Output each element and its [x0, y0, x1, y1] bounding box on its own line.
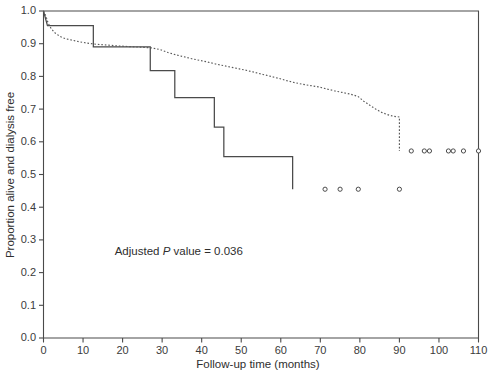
- y-tick-label: 0.1: [21, 299, 36, 311]
- censor-mark: [409, 149, 413, 153]
- y-tick-label: 0.4: [21, 201, 36, 213]
- y-tick-label: 0.3: [21, 233, 36, 245]
- x-tick-label: 40: [196, 344, 208, 356]
- x-tick-label: 80: [354, 344, 366, 356]
- y-tick-label: 0.8: [21, 70, 36, 82]
- x-tick-label: 60: [275, 344, 287, 356]
- y-tick-label: 0.5: [21, 168, 36, 180]
- dotted-step-curve: [44, 11, 400, 151]
- x-axis-ticks: 0102030405060708090100110: [40, 338, 487, 356]
- solid-step-curve: [44, 11, 293, 189]
- survival-plot: 0.00.10.20.30.40.50.60.70.80.91.0 010203…: [0, 0, 500, 381]
- censor-mark: [422, 149, 426, 153]
- x-tick-label: 20: [116, 344, 128, 356]
- x-tick-label: 110: [470, 344, 488, 356]
- y-axis-label: Proportion alive and dialysis free: [4, 92, 16, 258]
- x-axis-label: Follow-up time (months): [196, 358, 320, 370]
- y-tick-label: 0.7: [21, 103, 36, 115]
- censor-mark: [323, 187, 327, 191]
- adjusted-p-value: Adjusted P value = 0.036: [115, 245, 243, 257]
- censor-mark: [397, 187, 401, 191]
- y-tick-label: 1.0: [21, 4, 36, 16]
- censor-mark: [356, 187, 360, 191]
- x-tick-label: 70: [314, 344, 326, 356]
- x-tick-label: 50: [235, 344, 247, 356]
- y-tick-label: 0.0: [21, 331, 36, 343]
- censor-mark: [427, 149, 431, 153]
- x-tick-label: 0: [40, 344, 46, 356]
- y-tick-label: 0.9: [21, 37, 36, 49]
- survival-curves: [44, 11, 400, 189]
- censor-mark: [461, 149, 465, 153]
- censor-mark: [446, 149, 450, 153]
- x-tick-label: 90: [393, 344, 405, 356]
- axis-frame-rect: [44, 11, 479, 338]
- censoring-marks: [323, 149, 481, 191]
- y-tick-label: 0.2: [21, 266, 36, 278]
- x-tick-label: 30: [156, 344, 168, 356]
- kaplan-meier-figure: 0.00.10.20.30.40.50.60.70.80.91.0 010203…: [0, 0, 500, 381]
- censor-mark: [476, 149, 480, 153]
- y-axis-ticks: 0.00.10.20.30.40.50.60.70.80.91.0: [21, 4, 44, 343]
- x-tick-label: 10: [77, 344, 89, 356]
- censor-mark: [338, 187, 342, 191]
- y-tick-label: 0.6: [21, 135, 36, 147]
- plot-frame: [44, 11, 479, 338]
- plot-annotations: Adjusted P value = 0.036: [115, 245, 243, 257]
- x-tick-label: 100: [430, 344, 448, 356]
- censor-mark: [451, 149, 455, 153]
